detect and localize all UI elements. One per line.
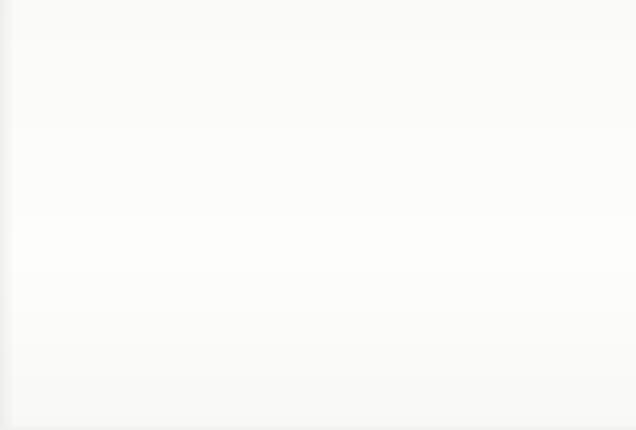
bar [227,339,233,371]
x-tick-label: 2000 [615,376,627,402]
bar [88,337,94,369]
bar [548,343,554,375]
x-tick-label: 1960 [267,376,279,402]
plot-area [0,0,636,372]
gridline [10,189,630,199]
x-tick-label: 1990 [528,376,540,402]
gridline [10,243,630,253]
bar [36,336,42,368]
x-tick-label: 1995 [571,376,583,402]
bar [27,336,33,368]
x-tick-label: 1965 [311,376,323,402]
bar [270,339,276,371]
bar [513,343,519,375]
x-tick-label: 1985 [484,376,496,402]
bar [401,341,407,373]
bar [349,341,355,373]
bar [314,340,320,372]
bar [583,312,589,377]
x-tick-label: 1930 [7,376,19,402]
bar-chart-figure: 1930193519401945195019551960196519701975… [0,0,636,430]
bar [45,336,51,368]
bar [522,238,528,376]
x-tick-label: 1950 [181,376,193,402]
gridline [10,135,630,145]
x-axis-tick-labels: 1930193519401945195019551960196519701975… [0,372,636,430]
bar [366,341,372,373]
bar [97,337,103,369]
bar [496,294,502,375]
bar [166,338,172,370]
gridline [10,297,630,307]
bar [132,308,138,370]
bar [383,341,389,373]
x-tick-label: 1975 [398,376,410,402]
bar [392,311,398,373]
gridline [10,80,630,90]
bar [470,342,476,374]
bar [62,336,68,368]
bar [600,155,606,376]
x-tick-label: 1955 [224,376,236,402]
gridline [10,26,630,36]
bar [192,338,198,370]
bar [574,220,580,377]
bar [140,338,146,370]
bar [305,310,311,372]
x-tick-label: 1935 [50,376,62,402]
x-tick-label: 1980 [441,376,453,402]
bar [105,337,111,369]
bar [531,295,537,376]
x-tick-label: 1940 [94,376,106,402]
x-tick-label: 1970 [354,376,366,402]
bar [435,342,441,374]
bar [409,312,415,374]
bar [539,270,545,375]
bar [210,309,216,371]
bar [566,295,572,376]
bar [479,342,485,374]
bar [201,338,207,370]
bar [592,69,598,377]
bar [71,337,77,369]
bar [444,342,450,374]
x-tick-label: 1945 [137,376,149,402]
bar [322,340,328,372]
